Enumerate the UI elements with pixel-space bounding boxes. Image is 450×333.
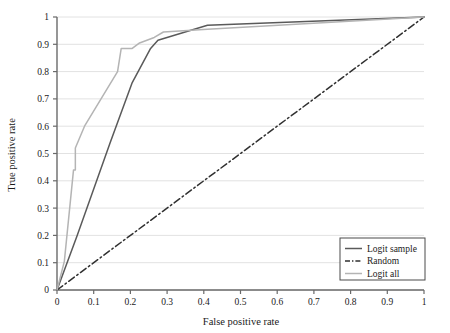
y-tick-label: 0.6 — [37, 122, 49, 132]
x-tick-label: 0.6 — [271, 297, 283, 307]
x-axis-title: False positive rate — [203, 316, 280, 327]
x-tick-label: 0.8 — [345, 297, 357, 307]
legend-label: Random — [367, 256, 400, 266]
x-tick-label: 1 — [422, 297, 427, 307]
x-tick-label: 0 — [55, 297, 60, 307]
x-tick-label: 0.3 — [161, 297, 173, 307]
y-tick-label: 0.7 — [37, 94, 49, 104]
y-tick-label: 0.9 — [37, 40, 49, 50]
legend-label: Logit sample — [367, 244, 417, 254]
y-tick-label: 0.3 — [37, 204, 49, 214]
x-tick-label: 0.5 — [235, 297, 247, 307]
y-tick-label: 0.2 — [37, 231, 49, 241]
y-tick-label: 0.1 — [37, 258, 49, 268]
y-tick-label: 0.4 — [37, 176, 49, 186]
y-tick-label: 0.8 — [37, 67, 49, 77]
y-axis-title: True positive rate — [6, 118, 17, 192]
roc-chart: 00.10.20.30.40.50.60.70.80.91 00.10.20.3… — [0, 0, 450, 333]
chart-background — [0, 0, 450, 333]
y-tick-label: 0 — [44, 285, 49, 295]
roc-plot-svg: 00.10.20.30.40.50.60.70.80.91 00.10.20.3… — [0, 0, 450, 333]
x-tick-label: 0.2 — [124, 297, 136, 307]
legend: Logit sampleRandomLogit all — [340, 238, 425, 280]
y-tick-label: 1 — [44, 12, 49, 22]
x-tick-label: 0.1 — [88, 297, 100, 307]
legend-label: Logit all — [367, 269, 400, 279]
x-tick-label: 0.4 — [198, 297, 210, 307]
y-tick-label: 0.5 — [37, 149, 49, 159]
x-tick-label: 0.9 — [381, 297, 393, 307]
x-tick-label: 0.7 — [308, 297, 320, 307]
